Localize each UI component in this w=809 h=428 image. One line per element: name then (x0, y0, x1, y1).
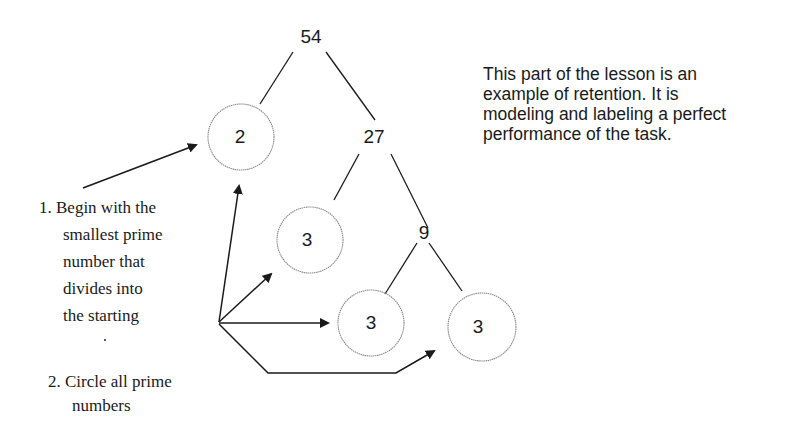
note-line: example of retention. It is (483, 84, 803, 104)
node-9: 9 (419, 222, 430, 244)
edge-9-3b (429, 243, 462, 291)
step-line: the starting (39, 302, 163, 329)
factor-tree-diagram: 54 2 27 3 9 3 3 This part of the lesson … (0, 0, 809, 428)
node-3a: 3 (302, 229, 313, 251)
arrow-to-circle-2 (219, 186, 239, 322)
node-2: 2 (235, 126, 246, 148)
step-line: 1. Begin with the (39, 194, 163, 221)
node-27: 27 (363, 126, 384, 148)
step-line: 2. Circle all prime (48, 370, 172, 394)
arrow-to-circle-3a (219, 274, 271, 322)
edge-54-2 (260, 52, 293, 104)
step-1-instruction: 1. Begin with the smallest prime number … (39, 194, 163, 329)
retention-note: This part of the lesson is an example of… (483, 64, 803, 144)
node-3b: 3 (366, 312, 377, 334)
node-3c: 3 (473, 316, 484, 338)
edge-54-27 (326, 52, 375, 120)
arrow-step1-to-2 (83, 145, 196, 188)
edge-27-9 (391, 154, 428, 228)
stray-dot (104, 339, 106, 341)
note-line: performance of the task. (483, 124, 803, 144)
arrow-to-circle-3c (219, 324, 434, 373)
step-line: divides into (39, 275, 163, 302)
step-line: numbers (48, 394, 172, 418)
step-2-instruction: 2. Circle all prime numbers (48, 370, 172, 418)
note-line: modeling and labeling a perfect (483, 104, 803, 124)
step-line: smallest prime (39, 221, 163, 248)
edge-27-3 (334, 154, 359, 200)
edge-9-3a (385, 243, 417, 294)
node-54: 54 (300, 26, 321, 48)
step-line: number that (39, 248, 163, 275)
note-line: This part of the lesson is an (483, 64, 803, 84)
tree-edges (260, 52, 462, 294)
